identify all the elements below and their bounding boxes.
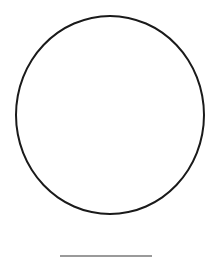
circle-shape <box>15 15 205 215</box>
horizontal-line <box>60 255 152 257</box>
diagram-canvas <box>0 0 216 278</box>
